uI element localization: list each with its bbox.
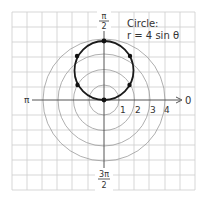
axes [32,24,182,168]
svg-text:π: π [102,12,107,21]
radius-labels: 1 2 3 4 [120,105,170,115]
point-theta-pi-3 [128,54,132,58]
point-theta-0 [102,98,107,103]
point-theta-2pi-3 [75,54,79,58]
radius-label-2: 2 [135,105,141,115]
label-angle-pi-over-2: π 2 [97,11,111,31]
radius-label-1: 1 [120,105,126,115]
polar-graph-figure: 0 π π 2 3π 2 1 2 3 4 Circle: r = 4 sin θ [0,0,207,201]
svg-text:3π: 3π [99,170,109,179]
equation-text: r = 4 sin θ [127,30,179,41]
label-angle-0: 0 [185,95,191,106]
point-theta-5pi-6 [75,83,79,87]
equation-title: Circle: [127,18,158,29]
point-theta-pi-6 [127,83,131,87]
radius-label-3: 3 [150,105,156,115]
svg-text:2: 2 [101,22,106,31]
svg-text:2: 2 [101,181,106,190]
label-angle-pi: π [24,95,30,105]
label-angle-3pi-over-2: 3π 2 [95,169,113,191]
point-theta-pi-2 [102,39,107,44]
radius-label-4: 4 [164,105,170,115]
